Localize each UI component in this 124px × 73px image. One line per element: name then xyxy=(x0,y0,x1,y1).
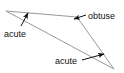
geometry-diagram: acute obtuse acute xyxy=(0,0,124,73)
triangle-angle-diagram-canvas: acute obtuse acute xyxy=(0,0,124,73)
leader-line-acute-bottom xyxy=(82,54,104,60)
angle-label-acute-bottom: acute xyxy=(55,56,77,66)
angle-label-obtuse-top: obtuse xyxy=(88,11,115,21)
angle-label-acute-left: acute xyxy=(4,29,26,39)
